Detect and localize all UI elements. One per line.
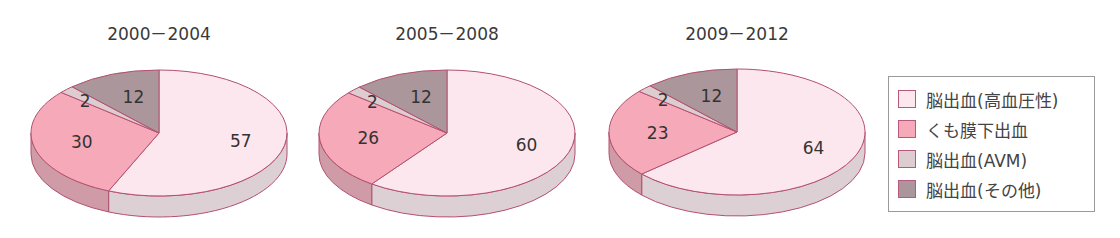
- legend-item-other: 脳出血(その他): [898, 177, 1041, 201]
- chart-title: 2000－2004: [107, 24, 211, 44]
- data-label-avm: 2: [80, 91, 91, 111]
- data-label-subarachnoid: 26: [357, 128, 379, 148]
- data-label-avm: 2: [367, 92, 378, 112]
- data-label-hypertensive: 57: [230, 131, 252, 151]
- data-label-subarachnoid: 23: [647, 123, 669, 143]
- legend-label: 脳出血(AVM): [926, 147, 1027, 172]
- legend-swatch: [898, 180, 916, 198]
- data-label-other: 12: [701, 86, 723, 106]
- data-label-avm: 2: [658, 90, 669, 110]
- legend-label: 脳出血(その他): [926, 177, 1041, 202]
- data-label-hypertensive: 64: [803, 138, 825, 158]
- pie-chart-1: 2000－20045730212: [31, 24, 287, 217]
- legend: 脳出血(高血圧性) くも膜下出血 脳出血(AVM) 脳出血(その他): [888, 76, 1095, 212]
- data-label-hypertensive: 60: [516, 135, 538, 155]
- pie-charts: 2000－200457302122005－200860262122009－201…: [0, 0, 880, 238]
- pie-chart-2: 2005－20086026212: [319, 24, 575, 217]
- legend-item-subarachnoid: くも膜下出血: [898, 117, 1028, 141]
- legend-item-avm: 脳出血(AVM): [898, 147, 1027, 171]
- legend-label: くも膜下出血: [926, 117, 1028, 142]
- legend-swatch: [898, 150, 916, 168]
- legend-swatch: [898, 90, 916, 108]
- pie-chart-3: 2009－20126423212: [609, 24, 865, 216]
- chart-title: 2009－2012: [685, 24, 789, 44]
- data-label-other: 12: [410, 87, 432, 107]
- legend-label: 脳出血(高血圧性): [926, 87, 1058, 112]
- data-label-other: 12: [123, 87, 145, 107]
- legend-item-hypertensive: 脳出血(高血圧性): [898, 87, 1058, 111]
- legend-swatch: [898, 120, 916, 138]
- data-label-subarachnoid: 30: [71, 132, 93, 152]
- chart-title: 2005－2008: [395, 24, 499, 44]
